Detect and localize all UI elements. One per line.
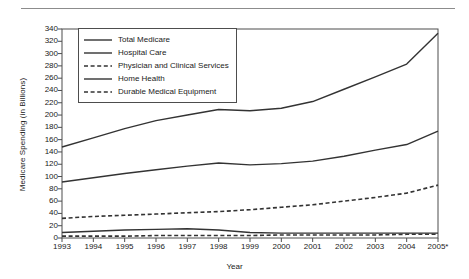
legend-item: Durable Medical Equipment (84, 85, 229, 98)
legend-item-label: Durable Medical Equipment (118, 87, 216, 96)
series-line (62, 229, 438, 233)
series-line (62, 185, 438, 218)
series-line (62, 131, 438, 182)
legend-item-label: Physician and Clinical Services (118, 61, 229, 70)
legend-line-swatch (84, 35, 112, 45)
legend-item: Home Health (84, 72, 229, 85)
legend-item-label: Hospital Care (118, 48, 166, 57)
chart-legend: Total MedicareHospital CarePhysician and… (78, 28, 237, 103)
series-line (62, 234, 438, 236)
legend-item: Total Medicare (84, 33, 229, 46)
legend-line-swatch (84, 61, 112, 71)
medicare-spending-line-chart: Medicare Spending (in Billions) Year 020… (0, 0, 469, 279)
legend-line-swatch (84, 87, 112, 97)
legend-line-swatch (84, 74, 112, 84)
legend-item: Physician and Clinical Services (84, 59, 229, 72)
legend-item-label: Home Health (118, 74, 165, 83)
legend-item: Hospital Care (84, 46, 229, 59)
legend-item-label: Total Medicare (118, 35, 170, 44)
legend-line-swatch (84, 48, 112, 58)
